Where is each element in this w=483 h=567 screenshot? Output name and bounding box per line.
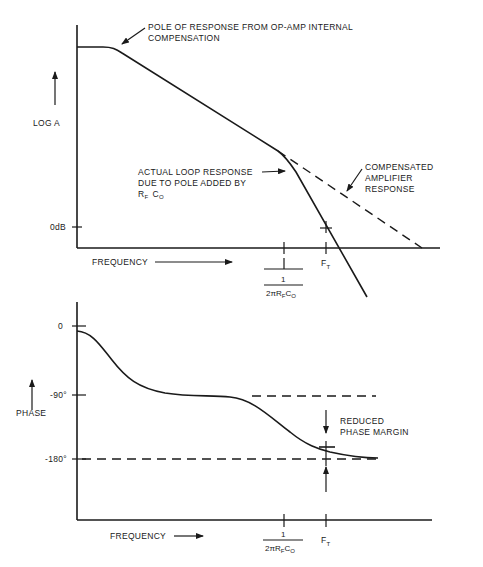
gain-plot: LOG A 0dB FREQUENCY 1 2πRFCO FT POLE OF … [33,22,440,299]
phase-x-label: FREQUENCY [110,531,166,541]
tick-minus180-label: -180° [45,454,67,464]
pole-annotation-arrow-icon [122,28,145,44]
gain-x-label: FREQUENCY [92,257,148,267]
pole-annotation-line1: POLE OF RESPONSE FROM OP-AMP INTERNAL [148,22,353,32]
tick-0-label: 0 [58,321,63,331]
actual-annotation-arrow-icon [262,171,285,172]
actual-annotation-line2: DUE TO POLE ADDED BY [138,178,246,188]
gain-y-label: LOG A [33,118,60,128]
tick-pole-den: 2πRFCO [266,289,296,299]
phase-tick-pole-num: 1 [281,530,286,539]
phase-y-label: PHASE [16,408,46,418]
tick-ft-label: FT [321,258,331,270]
compensated-annotation-arrow-icon [347,169,362,191]
phase-tick-pole-den: 2πRFCO [265,544,295,554]
tick-pole-num: 1 [281,275,286,284]
phase-curve [77,331,378,458]
tick-minus90-label: -90° [50,390,67,400]
pole-annotation-line2: COMPENSATION [148,33,220,43]
tick-0db-label: 0dB [50,222,66,232]
bode-diagram: LOG A 0dB FREQUENCY 1 2πRFCO FT POLE OF … [0,0,483,567]
compensated-annotation-line2: AMPLIFIER [365,173,413,183]
actual-annotation-line1: ACTUAL LOOP RESPONSE [138,167,253,177]
compensated-annotation-line3: RESPONSE [365,184,415,194]
phase-tick-ft-label: FT [321,535,331,547]
margin-annotation-line2: PHASE MARGIN [340,427,409,437]
actual-annotation-line3: RFCO [138,189,164,200]
compensated-annotation-line1: COMPENSATED [365,162,433,172]
phase-plot: PHASE 0 -90° -180° REDUCED PHASE MARGIN … [16,302,432,554]
margin-annotation-line1: REDUCED [340,416,384,426]
